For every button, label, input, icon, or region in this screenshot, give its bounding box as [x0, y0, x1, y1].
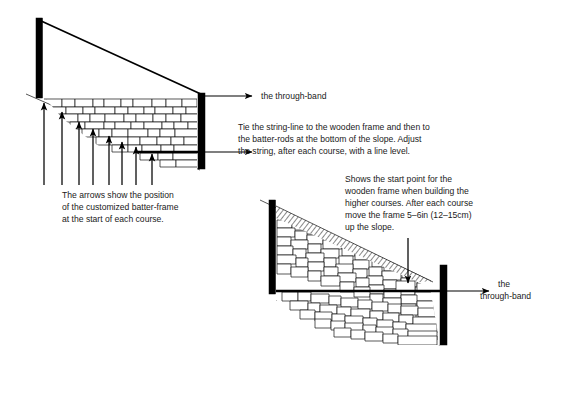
technical-diagram: the through-band Tie the string-line to … [0, 0, 562, 405]
string-line-caption-line-1: Tie the string-line to the wooden frame … [238, 122, 430, 132]
arrows-caption-line-3: at the start of each course. [62, 214, 164, 224]
start-point-caption-line-1: Shows the start point for the [345, 174, 452, 184]
upper-diagram-group [26, 18, 252, 185]
start-point-caption-line-5: up the slope. [345, 222, 394, 232]
start-point-caption-line-2: wooden frame when building the [344, 186, 469, 196]
lower-left-wooden-frame-post [269, 200, 276, 294]
lower-right-wooden-frame-post [440, 265, 447, 345]
through-band-label-top: the through-band [261, 91, 327, 101]
diagram-canvas: the through-band Tie the string-line to … [0, 0, 562, 405]
string-line-caption: Tie the string-line to the wooden frame … [238, 122, 430, 156]
arrows-caption: The arrows show the position of the cust… [62, 190, 179, 224]
start-point-caption-line-3: higher courses. After each course [345, 198, 473, 208]
upper-left-wooden-frame-post [36, 18, 43, 98]
arrows-caption-line-1: The arrows show the position [62, 190, 174, 200]
string-line-caption-line-3: the string, after each course, with a li… [238, 146, 410, 156]
through-band-label-bottom: the through-band [480, 279, 531, 301]
through-band-label-bottom-line-2: through-band [480, 291, 531, 301]
through-band-label-bottom-line-1: the [498, 279, 510, 289]
lower-start-point-stone [396, 281, 415, 291]
string-line-caption-line-2: the batter-rods at the bottom of the slo… [238, 134, 422, 144]
start-point-caption: Shows the start point for the wooden fra… [344, 174, 473, 232]
string-line [39, 20, 203, 95]
upper-right-wooden-frame-post [198, 93, 205, 169]
start-point-caption-line-4: move the frame 5–6in (12–15cm) [345, 210, 472, 220]
arrows-caption-line-2: of the customized batter-frame [62, 202, 179, 212]
